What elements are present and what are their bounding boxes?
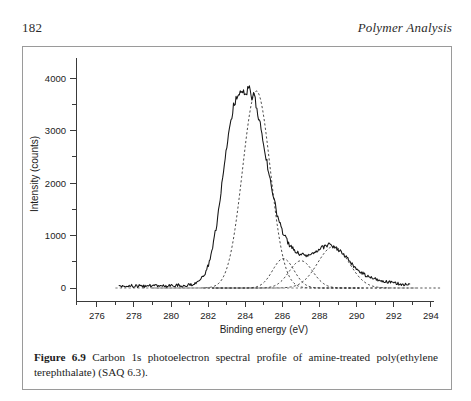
measured-spectrum-curve <box>119 86 410 288</box>
page-number: 182 <box>22 20 42 36</box>
x-axis-tick-label: 284 <box>237 310 253 321</box>
figure-caption: Figure 6.9 Carbon 1s photoelectron spect… <box>34 350 438 380</box>
x-axis-tick-label: 290 <box>349 310 365 321</box>
running-head: 182 Polymer Analysis <box>22 20 452 38</box>
fitted-component-curve-4 <box>215 247 442 288</box>
y-axis-tick-label: 3000 <box>45 125 66 136</box>
x-axis-tick-label: 292 <box>386 310 402 321</box>
x-axis-tick-label: 294 <box>423 310 439 321</box>
fitted-component-curve-2 <box>203 259 362 288</box>
fitted-component-curve-1 <box>153 91 360 288</box>
x-axis-tick-label: 282 <box>200 310 216 321</box>
running-title: Polymer Analysis <box>358 20 452 36</box>
x-axis-tick-label: 286 <box>274 310 290 321</box>
x-axis-tick-label: 288 <box>312 310 328 321</box>
figure-caption-label: Figure 6.9 <box>34 351 86 363</box>
chart-figure: 0100020003000400027627828028228428628829… <box>22 46 452 336</box>
y-axis-tick-label: 4000 <box>45 73 66 84</box>
x-axis-title: Binding energy (eV) <box>220 324 308 335</box>
y-axis-tick-label: 0 <box>61 282 66 293</box>
y-axis-tick-label: 2000 <box>45 178 66 189</box>
y-axis-tick-label: 1000 <box>45 230 66 241</box>
x-axis-tick-label: 278 <box>126 310 142 321</box>
y-axis-title: Intensity (counts) <box>29 136 40 212</box>
figure-caption-text: Carbon 1s photoelectron spectral profile… <box>34 351 438 378</box>
x-axis-tick-label: 276 <box>89 310 105 321</box>
book-page: 182 Polymer Analysis 0100020003000400027… <box>0 0 471 401</box>
xps-spectrum-chart: 0100020003000400027627828028228428628829… <box>22 46 452 336</box>
x-axis-tick-label: 280 <box>163 310 179 321</box>
